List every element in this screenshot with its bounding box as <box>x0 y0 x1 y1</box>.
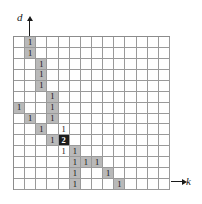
grid-cell-empty <box>148 168 159 179</box>
grid-cell-empty <box>148 81 159 92</box>
grid-cell-empty <box>148 103 159 114</box>
grid-cell-empty <box>114 146 125 157</box>
grid-cell-empty <box>159 179 170 190</box>
grid-cell-empty <box>114 70 125 81</box>
grid-cell-empty <box>14 81 25 92</box>
grid-cell-empty <box>70 70 81 81</box>
grid-cell-value: 1 <box>114 179 125 190</box>
grid-cell-empty <box>92 146 103 157</box>
grid-cell-empty <box>70 124 81 135</box>
grid-cell-empty <box>14 70 25 81</box>
grid-cell-empty <box>103 179 114 190</box>
grid-cell-empty <box>36 135 47 146</box>
grid-cell-empty <box>14 146 25 157</box>
grid-cell-empty <box>36 48 47 59</box>
grid-cell-empty <box>148 157 159 168</box>
grid-cell-empty <box>137 135 148 146</box>
grid-cell-empty <box>114 103 125 114</box>
grid-cell-value: 1 <box>47 114 58 125</box>
grid-cell-value: 1 <box>25 37 36 48</box>
grid-cell-empty <box>137 37 148 48</box>
grid-cell-empty <box>103 103 114 114</box>
grid-cell-empty <box>25 135 36 146</box>
grid-cell-empty <box>92 135 103 146</box>
grid-cell-empty <box>81 48 92 59</box>
grid-cell-value: 1 <box>70 179 81 190</box>
grid-cell-empty <box>103 37 114 48</box>
grid-cell-empty <box>59 168 70 179</box>
grid-cell-empty <box>25 168 36 179</box>
grid-cell-empty <box>148 59 159 70</box>
grid-cell-empty <box>159 37 170 48</box>
grid-cell-empty <box>125 157 136 168</box>
grid-cell-empty <box>81 124 92 135</box>
grid-cell-empty <box>70 103 81 114</box>
grid-cell-empty <box>70 37 81 48</box>
grid-cell-empty <box>59 48 70 59</box>
grid-cell-empty <box>70 135 81 146</box>
grid-cell-empty <box>59 179 70 190</box>
grid-cell-empty <box>70 92 81 103</box>
grid-cell-value: 1 <box>92 157 103 168</box>
count-grid: 11111111111112111111111 <box>13 36 170 190</box>
grid-cell-empty <box>81 37 92 48</box>
grid-cell-empty <box>92 37 103 48</box>
grid-cell-empty <box>47 146 58 157</box>
grid-cell-empty <box>14 48 25 59</box>
grid-cell-value: 1 <box>47 92 58 103</box>
d-axis-label: d <box>17 12 23 23</box>
grid-cell-empty <box>81 146 92 157</box>
grid-cell-empty <box>14 124 25 135</box>
grid-cell-empty <box>81 70 92 81</box>
grid-cell-empty <box>81 103 92 114</box>
grid-cell-empty <box>103 81 114 92</box>
grid-cell-empty <box>36 103 47 114</box>
grid-cell-empty <box>125 114 136 125</box>
grid-cell-empty <box>92 179 103 190</box>
grid-cell-value: 1 <box>36 59 47 70</box>
grid-cell-empty <box>137 103 148 114</box>
grid-cell-empty <box>47 70 58 81</box>
grid-cell-empty <box>137 124 148 135</box>
k-axis-arrow-icon <box>171 181 183 182</box>
grid-cell-empty <box>125 92 136 103</box>
grid-cell-empty <box>25 124 36 135</box>
grid-cell-empty <box>92 168 103 179</box>
grid-cell-value: 1 <box>47 135 58 146</box>
grid-cell-empty <box>59 103 70 114</box>
grid-cell-empty <box>137 179 148 190</box>
grid-cell-value: 1 <box>36 81 47 92</box>
grid-cell-empty <box>59 92 70 103</box>
grid-cell-empty <box>125 48 136 59</box>
grid-cell-empty <box>59 37 70 48</box>
grid-cell-empty <box>103 124 114 135</box>
grid-cell-empty <box>103 114 114 125</box>
grid-cell-value: 1 <box>81 157 92 168</box>
grid-cell-empty <box>125 81 136 92</box>
grid-cell-empty <box>114 157 125 168</box>
grid-cell-empty <box>148 70 159 81</box>
grid-cell-empty <box>159 157 170 168</box>
grid-cell-empty <box>36 114 47 125</box>
grid-cell-empty <box>92 48 103 59</box>
grid-cell-empty <box>59 114 70 125</box>
grid-cell-empty <box>47 48 58 59</box>
grid-cell-value: 1 <box>47 103 58 114</box>
grid-cell-empty <box>25 70 36 81</box>
grid-cell-empty <box>92 81 103 92</box>
grid-cell-value: 1 <box>36 124 47 135</box>
grid-cell-empty <box>125 168 136 179</box>
grid-cell-value: 1 <box>70 157 81 168</box>
grid-cell-empty <box>148 179 159 190</box>
grid-cell-empty <box>47 157 58 168</box>
grid-cell-value: 1 <box>25 114 36 125</box>
grid-cell-empty <box>159 168 170 179</box>
grid-cell-empty <box>92 70 103 81</box>
grid-cell-empty <box>36 37 47 48</box>
grid-cell-empty <box>70 48 81 59</box>
grid-cell-empty <box>159 146 170 157</box>
grid-cell-empty <box>137 157 148 168</box>
grid-cell-empty <box>59 59 70 70</box>
grid-cell-empty <box>148 135 159 146</box>
grid-cell-empty <box>81 92 92 103</box>
